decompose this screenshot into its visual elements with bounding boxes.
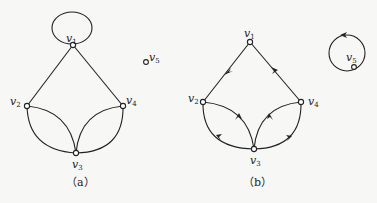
caption-b: （b） — [243, 176, 272, 189]
node-a-v3 — [73, 150, 78, 155]
node-b-v2 — [200, 99, 205, 104]
label-b-v3: v3 — [250, 154, 261, 168]
label-b-v2: v2 — [188, 92, 199, 106]
label-b-v4: v4 — [308, 95, 319, 109]
edge-b-v4-v1 — [250, 42, 301, 102]
edge-a-v1-v2 — [27, 45, 73, 106]
edge-b-v3-v4-inner — [254, 102, 301, 149]
node-b-v4 — [298, 99, 303, 104]
node-b-v3 — [251, 146, 256, 151]
graph-figure: v1 v2 v3 v4 v5 （a） v1 v2 v3 v4 v5 — [0, 0, 377, 203]
label-a-v3: v3 — [72, 158, 83, 172]
label-a-v5: v5 — [149, 51, 160, 65]
edge-a-v3-v4-inner — [76, 106, 123, 153]
node-b-v5 — [352, 65, 357, 70]
edge-a-v1-v4 — [73, 45, 123, 106]
arrow-icon — [286, 135, 292, 141]
label-a-v4: v4 — [126, 94, 137, 108]
caption-a: （a） — [66, 176, 95, 189]
edge-b-v1-v2 — [203, 42, 250, 102]
label-a-v1: v1 — [66, 32, 77, 46]
graph-b: v1 v2 v3 v4 v5 （b） — [188, 27, 365, 189]
edge-a-v2-v3-inner — [27, 106, 76, 153]
label-b-v1: v1 — [244, 27, 255, 41]
label-a-v2: v2 — [10, 95, 21, 109]
edge-b-v3-v2-inner — [203, 102, 254, 149]
node-a-v4 — [120, 103, 125, 108]
label-b-v5: v5 — [346, 51, 357, 65]
node-a-v2 — [24, 103, 29, 108]
node-a-v5 — [144, 60, 149, 65]
graph-a: v1 v2 v3 v4 v5 （a） — [10, 12, 160, 189]
